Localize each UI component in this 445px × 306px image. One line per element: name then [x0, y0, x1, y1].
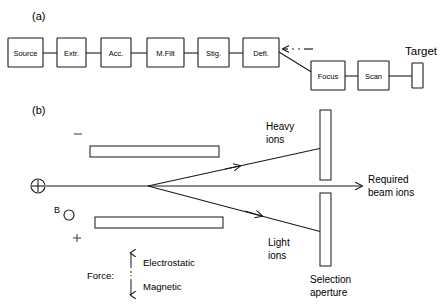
- stage-scan[interactable]: Scan: [358, 61, 389, 90]
- beamline-group: Source Extr. Acc. M.Filt Stig. Defl.: [8, 38, 438, 90]
- selection-aperture: Selection aperture: [310, 110, 351, 298]
- ion-source-symbol: [31, 179, 45, 193]
- light-ions-label-line1: Light: [268, 237, 290, 248]
- stage-source[interactable]: Source: [8, 38, 43, 67]
- stage-source-label: Source: [14, 49, 38, 58]
- connector-deflector-focus: [279, 52, 313, 73]
- required-beam-label-line1: Required: [368, 174, 409, 185]
- selection-aperture-label-line2: aperture: [310, 287, 348, 298]
- heavy-ions-label-line2: ions: [266, 134, 284, 145]
- electrode-plus-sign: [73, 234, 81, 242]
- figure-root: (a) Source: [0, 0, 445, 306]
- target-box[interactable]: [412, 63, 423, 88]
- panel-b-label: (b): [32, 104, 45, 116]
- light-ions-label-line2: ions: [268, 250, 286, 261]
- stage-extractor[interactable]: Extr.: [57, 38, 86, 67]
- stage-accelerator[interactable]: Acc.: [101, 38, 131, 67]
- stage-scan-label: Scan: [365, 72, 382, 81]
- magnetic-force-label: Magnetic: [143, 281, 182, 292]
- upper-deflection-plate: [90, 146, 219, 157]
- stage-extractor-label: Extr.: [64, 49, 79, 58]
- heavy-ions-ray-arrow: [225, 166, 240, 169]
- selection-aperture-label-line1: Selection: [310, 274, 351, 285]
- magnetic-field-circle: [64, 210, 74, 220]
- lower-deflection-plate: [95, 217, 223, 228]
- stage-deflector[interactable]: Defl.: [243, 38, 279, 67]
- selection-aperture-upper-blade: [320, 110, 331, 180]
- electrostatic-force-label: Electrostatic: [143, 257, 195, 268]
- stage-accelerator-label: Acc.: [109, 49, 124, 58]
- stage-stigmator[interactable]: Stig.: [198, 38, 229, 67]
- stage-stigmator-label: Stig.: [206, 49, 221, 58]
- magnetic-field-label: B: [54, 205, 60, 215]
- selection-aperture-lower-blade: [320, 193, 331, 266]
- stage-mass-filter[interactable]: M.Filt: [147, 38, 184, 67]
- required-beam-label-line2: beam ions: [368, 187, 414, 198]
- target-label: Target: [405, 45, 438, 57]
- magnetic-field-marker: B: [54, 205, 74, 220]
- force-legend-title: Force:: [87, 270, 114, 281]
- light-ions-ray-arrow: [245, 211, 262, 216]
- target[interactable]: Target: [405, 45, 438, 88]
- stage-deflector-label: Defl.: [253, 49, 268, 58]
- stage-focus[interactable]: Focus: [311, 61, 345, 90]
- stage-mass-filter-label: M.Filt: [156, 49, 175, 58]
- heavy-ions-label-line1: Heavy: [266, 121, 294, 132]
- stage-focus-label: Focus: [318, 72, 339, 81]
- panel-a-label: (a): [32, 10, 45, 22]
- force-legend: Force: Electrostatic Magnetic: [87, 253, 195, 295]
- ion-beam-diagram: (a) Source: [0, 0, 445, 306]
